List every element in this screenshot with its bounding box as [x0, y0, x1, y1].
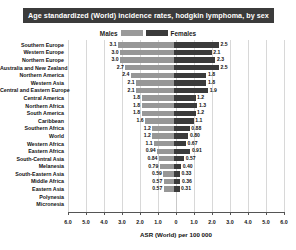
bar-value-female: 0.80 — [190, 133, 200, 139]
x-tick-mark — [104, 212, 105, 215]
bar-zone: 1.81.2 — [66, 109, 282, 117]
bar-value-male: 0.79 — [148, 164, 158, 170]
bar-male — [136, 80, 174, 85]
x-tick-mark — [248, 212, 249, 215]
bar-male — [164, 186, 174, 191]
bar-row: Australia and New Zealand2.72.5 — [0, 64, 296, 72]
x-tick-label: 4.0 — [100, 219, 107, 225]
chart-legend: Males Females — [0, 28, 296, 38]
bar-zone: 3.12.5 — [66, 41, 282, 49]
bar-female — [174, 156, 184, 161]
bar-value-male: 1.2 — [144, 133, 151, 139]
bar-zone — [66, 200, 282, 208]
bar-value-female: 0.67 — [188, 141, 198, 147]
bar-male — [142, 111, 174, 116]
category-label: South-Central Asia — [0, 156, 66, 162]
bar-row: Western Asia2.11.8 — [0, 79, 296, 87]
bar-value-male: 0.59 — [152, 171, 162, 177]
bar-male — [154, 141, 174, 146]
bar-row: Polynesia — [0, 193, 296, 201]
bar-value-female: 0.40 — [183, 164, 193, 170]
bar-zone: 0.590.33 — [66, 170, 282, 178]
bar-value-male: 0.57 — [152, 179, 162, 185]
x-tick-label: 3.0 — [118, 219, 125, 225]
x-tick-mark — [176, 212, 177, 215]
bar-value-male: 1.2 — [144, 126, 151, 132]
x-tick-label: 6.0 — [280, 219, 287, 225]
legend-label-females: Females — [171, 30, 197, 37]
bar-row: Western Africa1.10.67 — [0, 140, 296, 148]
category-label: Western Europe — [0, 49, 66, 55]
bar-value-female: 1.9 — [210, 88, 217, 94]
bar-value-female: 0.31 — [181, 186, 191, 192]
bar-row: World1.20.80 — [0, 132, 296, 140]
bar-value-male: 2.7 — [117, 65, 124, 71]
category-label: Central and Eastern Europe — [0, 87, 66, 93]
bar-value-female: 2.1 — [213, 50, 220, 56]
x-tick-label: 5.0 — [262, 219, 269, 225]
bar-female — [174, 171, 180, 176]
category-label: World — [0, 133, 66, 139]
bar-row: Caribbean1.61.1 — [0, 117, 296, 125]
bar-female — [174, 95, 196, 100]
x-tick-mark — [230, 212, 231, 215]
bar-zone: 1.81.2 — [66, 94, 282, 102]
bar-value-male: 2.4 — [122, 72, 129, 78]
bar-row: Northern America2.41.8 — [0, 71, 296, 79]
bar-zone: 0.790.40 — [66, 163, 282, 171]
bar-value-female: 2.3 — [217, 57, 224, 63]
x-tick-label: 0 — [175, 219, 178, 225]
bar-male — [159, 156, 174, 161]
bar-row: South-Central Asia0.840.57 — [0, 155, 296, 163]
bar-zone: 3.02.1 — [66, 49, 282, 57]
bar-female — [174, 118, 194, 123]
bar-row: Micronesia — [0, 200, 296, 208]
bar-female — [174, 179, 180, 184]
bar-value-female: 1.8 — [208, 72, 215, 78]
x-tick-mark — [158, 212, 159, 215]
bar-rows: Southern Europe3.12.5Western Europe3.02.… — [0, 41, 296, 208]
category-label: Northern Africa — [0, 103, 66, 109]
category-label: Polynesia — [0, 194, 66, 200]
bar-female — [174, 73, 206, 78]
bar-female — [174, 103, 197, 108]
bar-female — [174, 126, 190, 131]
category-label: Northern Europe — [0, 57, 66, 63]
bar-zone: 2.72.5 — [66, 64, 282, 72]
bar-row: South-Eastern Asia0.590.33 — [0, 170, 296, 178]
category-label: Melanesia — [0, 163, 66, 169]
bar-zone: 1.61.1 — [66, 117, 282, 125]
category-label: Southern Africa — [0, 125, 66, 131]
bar-male — [125, 65, 174, 70]
bar-row: Northern Europe3.02.3 — [0, 56, 296, 64]
bar-male — [120, 50, 174, 55]
x-tick-label: 2.0 — [136, 219, 143, 225]
legend-label-males: Males — [100, 30, 118, 37]
bar-value-male: 1.8 — [133, 95, 140, 101]
bar-zone: 1.20.80 — [66, 132, 282, 140]
bar-zone — [66, 193, 282, 201]
category-label: Central America — [0, 95, 66, 101]
x-tick-mark — [122, 212, 123, 215]
bar-zone: 0.570.31 — [66, 185, 282, 193]
bar-value-female: 1.2 — [197, 95, 204, 101]
legend-swatch-females — [146, 30, 168, 36]
bar-zone: 2.11.8 — [66, 79, 282, 87]
bar-female — [174, 57, 215, 62]
bar-male — [157, 149, 174, 154]
bar-female — [174, 164, 181, 169]
bar-zone: 2.11.9 — [66, 87, 282, 95]
bar-row: Northern Africa1.81.3 — [0, 102, 296, 110]
bar-male — [142, 103, 174, 108]
bar-row: Central and Eastern Europe2.11.9 — [0, 87, 296, 95]
legend-swatch-males — [121, 30, 143, 36]
bar-row: Middle Africa0.570.36 — [0, 178, 296, 186]
x-tick-mark — [140, 212, 141, 215]
bar-value-female: 0.33 — [181, 171, 191, 177]
bar-male — [131, 73, 174, 78]
bar-value-male: 2.1 — [128, 80, 135, 86]
bar-value-male: 1.1 — [146, 141, 153, 147]
bar-female — [174, 50, 212, 55]
bar-value-female: 2.5 — [221, 65, 228, 71]
bar-value-female: 2.5 — [221, 42, 228, 48]
